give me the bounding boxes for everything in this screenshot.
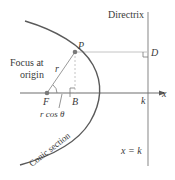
point-p	[73, 50, 78, 55]
point-f	[45, 91, 50, 96]
point-f-label: F	[42, 96, 50, 107]
right-angle-d-icon	[143, 52, 148, 57]
focus-label-line2: origin	[20, 69, 44, 80]
conic-diagram: Directrix P D Focus at origin r F B r co…	[0, 0, 175, 180]
focus-label-line1: Focus at	[10, 57, 44, 68]
rcos-pointer	[59, 94, 62, 108]
radius-label: r	[55, 63, 59, 74]
x-axis-label: x	[161, 88, 167, 99]
right-angle-b-icon	[70, 88, 75, 93]
directrix-label: Directrix	[108, 9, 144, 20]
point-p-label: P	[77, 40, 84, 51]
conic-section-label: Conic section	[27, 130, 72, 169]
radius-segment	[47, 52, 75, 93]
theta-arc	[53, 85, 57, 93]
directrix-equation-label: x = k	[120, 145, 142, 156]
r-cos-theta-label: r cos θ	[40, 109, 65, 119]
point-d-label: D	[150, 47, 159, 58]
k-tick-label: k	[141, 95, 146, 106]
point-b-label: B	[72, 96, 78, 107]
